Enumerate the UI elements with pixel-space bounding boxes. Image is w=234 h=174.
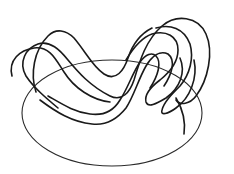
- knot-diagram: [0, 0, 234, 174]
- knot-inner-wave-1: [40, 53, 172, 125]
- knot-upper-arch: [33, 28, 152, 92]
- diagram-svg: [0, 0, 234, 174]
